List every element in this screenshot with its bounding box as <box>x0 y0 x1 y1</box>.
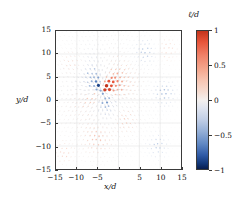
y-axis-tick-label: −10 <box>29 143 51 150</box>
x-axis-tick-label: 15 <box>177 174 186 181</box>
y-axis-tick-label: 15 <box>29 26 51 33</box>
colorbar-tick <box>209 65 212 66</box>
x-axis-tick-label: −15 <box>47 174 63 181</box>
y-axis-tick-label: −15 <box>29 166 51 173</box>
y-axis-tick <box>55 77 58 78</box>
y-axis-tick <box>55 30 58 31</box>
x-axis-tick <box>161 167 162 170</box>
colorbar-tick <box>209 30 212 31</box>
colorbar-gradient <box>196 30 209 170</box>
scatter-plot-area <box>55 30 182 170</box>
y-axis-tick-label: 10 <box>29 50 51 57</box>
colorbar-tick-label: −1 <box>214 166 225 175</box>
y-axis-tick <box>55 147 58 148</box>
y-axis-tick-label: 0 <box>29 96 51 103</box>
particle-markers <box>56 31 181 169</box>
colorbar <box>196 30 209 170</box>
y-axis-tick <box>55 170 58 171</box>
colorbar-title: ℓ/d <box>188 11 199 19</box>
colorbar-tick <box>209 135 212 136</box>
x-axis-tick-label: −10 <box>68 174 84 181</box>
x-axis-tick <box>119 167 120 170</box>
x-axis-title: x/d <box>104 183 116 191</box>
y-axis-tick-label: −5 <box>29 120 51 127</box>
y-axis-tick-label: 5 <box>29 73 51 80</box>
colorbar-tick-label: −0.5 <box>214 131 232 140</box>
x-axis-tick-label: 10 <box>156 174 165 181</box>
colorbar-tick <box>209 100 212 101</box>
colorbar-tick-label: 0.5 <box>214 61 226 70</box>
x-axis-tick <box>97 167 98 170</box>
y-axis-tick <box>55 53 58 54</box>
y-axis-title: y/d <box>16 96 28 104</box>
y-axis-tick <box>55 100 58 101</box>
x-axis-tick-label: 5 <box>137 174 142 181</box>
colorbar-tick <box>209 170 212 171</box>
x-axis-tick <box>140 167 141 170</box>
figure-root: −15−10−551015 −15−10−5051015 x/d y/d ℓ/d… <box>0 0 236 202</box>
x-axis-tick <box>182 167 183 170</box>
y-axis-tick <box>55 123 58 124</box>
colorbar-tick-label: 1 <box>214 26 219 35</box>
x-axis-tick-label: −5 <box>92 174 103 181</box>
x-axis-tick <box>76 167 77 170</box>
colorbar-tick-label: 0 <box>214 96 219 105</box>
